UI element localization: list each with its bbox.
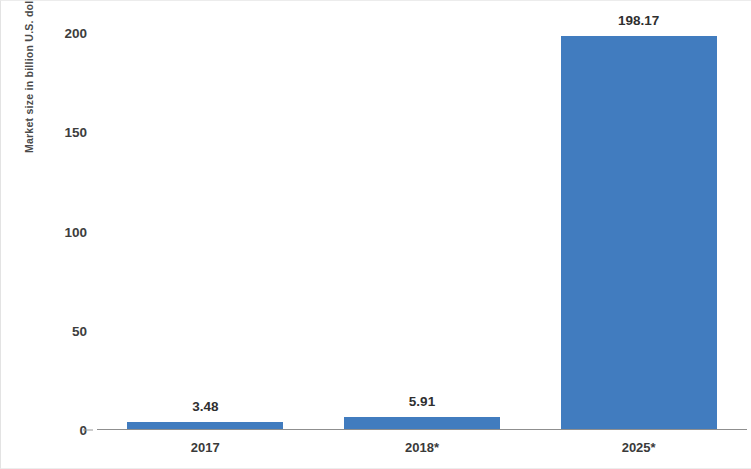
bar[interactable]	[344, 417, 500, 429]
y-axis-tick-label: 100	[27, 224, 87, 239]
y-axis-tick-label: 150	[27, 125, 87, 140]
y-axis-title: Market size in billion U.S. dollars	[17, 61, 41, 351]
x-axis-tick-label: 2017	[145, 440, 265, 455]
y-axis-tick-label: 50	[27, 323, 87, 338]
bar-value-label: 3.48	[145, 399, 265, 414]
x-axis-tick-label: 2025*	[579, 440, 699, 455]
x-axis-tick-label: 2018*	[362, 440, 482, 455]
y-axis-tick-mark	[83, 430, 93, 431]
bar-value-label: 5.91	[362, 394, 482, 409]
bar[interactable]	[127, 422, 283, 429]
bar-value-label: 198.17	[579, 13, 699, 28]
bar[interactable]	[561, 36, 717, 429]
y-axis-tick-label: 0	[27, 423, 87, 438]
x-axis-line	[97, 429, 747, 430]
bar-chart: Market size in billion U.S. dollars 0501…	[0, 0, 751, 469]
y-axis-tick-label: 200	[27, 26, 87, 41]
plot-area: 050100150200 3.485.91198.17 20172018*202…	[97, 23, 747, 430]
